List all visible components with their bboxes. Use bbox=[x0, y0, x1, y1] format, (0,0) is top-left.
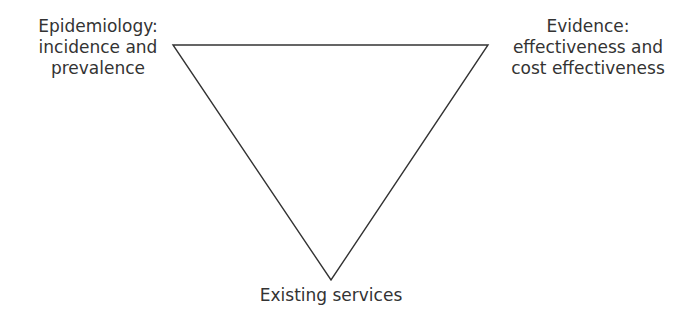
epidemiology-label-line-1: Epidemiology: bbox=[18, 16, 178, 37]
evidence-label: Evidence: effectiveness and cost effecti… bbox=[490, 16, 686, 79]
evidence-label-line-1: Evidence: bbox=[490, 16, 686, 37]
evidence-label-line-2: effectiveness and bbox=[490, 37, 686, 58]
existing-services-label: Existing services bbox=[231, 285, 431, 306]
epidemiology-label-line-3: prevalence bbox=[18, 58, 178, 79]
epidemiology-label: Epidemiology: incidence and prevalence bbox=[18, 16, 178, 79]
existing-services-label-line-1: Existing services bbox=[231, 285, 431, 306]
triangle-shape bbox=[173, 45, 488, 280]
evidence-label-line-3: cost effectiveness bbox=[490, 58, 686, 79]
epidemiology-label-line-2: incidence and bbox=[18, 37, 178, 58]
